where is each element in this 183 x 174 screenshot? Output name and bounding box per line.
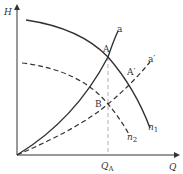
point-a-label: A [102, 44, 110, 54]
x-axis-label: Q [169, 162, 177, 172]
point-b-label: B [95, 99, 102, 109]
curve-n1-label: n1 [148, 122, 158, 134]
y-axis-label: H [3, 7, 12, 17]
qa-label: QA [101, 161, 114, 173]
n2-sub: 2 [133, 136, 137, 144]
curve-n2 [22, 63, 130, 136]
curve-a-prime-label: a′ [148, 54, 155, 64]
point-a-prime-label: A′ [126, 67, 136, 77]
n1-sub: 1 [154, 126, 158, 134]
curve-a-label: a [117, 24, 123, 34]
curve-n2-label: n2 [127, 132, 137, 144]
pump-curve-diagram: H Q a a′ A A′ B n1 n2 QA [0, 0, 183, 174]
qa-sub: A [107, 165, 114, 173]
